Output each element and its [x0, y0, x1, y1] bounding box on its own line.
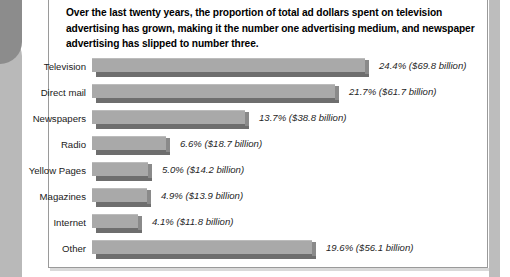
- category-label: Other: [0, 243, 86, 254]
- bar-face: [92, 240, 312, 254]
- bar-shadow-bottom: [96, 254, 316, 259]
- chart-row: Television24.4% ($69.8 billion): [0, 58, 510, 80]
- bar-face: [92, 136, 166, 150]
- bar-value-label: 24.4% ($69.8 billion): [379, 60, 466, 71]
- category-label: Television: [0, 61, 86, 72]
- bar: [92, 162, 148, 182]
- screenshot-root: Over the last twenty years, the proporti…: [0, 0, 510, 277]
- bar: [92, 188, 147, 208]
- chart-row: Newspapers13.7% ($38.8 billion): [0, 110, 510, 132]
- category-label: Internet: [0, 217, 86, 228]
- bar-value-label: 6.6% ($18.7 billion): [180, 138, 262, 149]
- category-label: Yellow Pages: [0, 165, 86, 176]
- bar-shadow-side: [166, 138, 170, 152]
- bar-shadow-bottom: [96, 228, 142, 233]
- bar: [92, 110, 245, 130]
- bar-shadow-bottom: [96, 150, 170, 155]
- bar: [92, 84, 335, 104]
- bar-shadow-side: [312, 242, 316, 256]
- bar-face: [92, 214, 138, 228]
- chart-row: Other19.6% ($56.1 billion): [0, 240, 510, 262]
- category-label: Magazines: [0, 191, 86, 202]
- chart-row: Internet4.1% ($11.8 billion): [0, 214, 510, 236]
- bar-face: [92, 84, 335, 98]
- bar: [92, 240, 312, 260]
- bar: [92, 136, 166, 156]
- category-label: Radio: [0, 139, 86, 150]
- bar-value-label: 21.7% ($61.7 billion): [349, 86, 436, 97]
- bar-face: [92, 162, 148, 176]
- bar-shadow-bottom: [96, 72, 369, 77]
- chart-row: Magazines4.9% ($13.9 billion): [0, 188, 510, 210]
- bar-shadow-bottom: [96, 202, 151, 207]
- bar-shadow-side: [138, 216, 142, 230]
- bar-shadow-bottom: [96, 124, 249, 129]
- category-label: Newspapers: [0, 113, 86, 124]
- bar-shadow-side: [365, 60, 369, 74]
- bar-value-label: 4.1% ($11.8 billion): [152, 216, 233, 227]
- bar-shadow-side: [148, 164, 152, 178]
- bar-shadow-side: [335, 86, 339, 100]
- bar: [92, 58, 365, 78]
- bar-face: [92, 58, 365, 72]
- bar-face: [92, 188, 147, 202]
- bar: [92, 214, 138, 234]
- advertising-spend-bar-chart: Television24.4% ($69.8 billion)Direct ma…: [0, 0, 510, 277]
- bar-value-label: 4.9% ($13.9 billion): [161, 190, 243, 201]
- bar-value-label: 19.6% ($56.1 billion): [326, 242, 413, 253]
- bar-shadow-side: [245, 112, 249, 126]
- bar-value-label: 13.7% ($38.8 billion): [259, 112, 346, 123]
- bar-shadow-bottom: [96, 176, 152, 181]
- bar-face: [92, 110, 245, 124]
- bar-value-label: 5.0% ($14.2 billion): [162, 164, 244, 175]
- category-label: Direct mail: [0, 87, 86, 98]
- chart-row: Direct mail21.7% ($61.7 billion): [0, 84, 510, 106]
- bar-shadow-side: [147, 190, 151, 204]
- chart-row: Radio6.6% ($18.7 billion): [0, 136, 510, 158]
- chart-row: Yellow Pages5.0% ($14.2 billion): [0, 162, 510, 184]
- bar-shadow-bottom: [96, 98, 339, 103]
